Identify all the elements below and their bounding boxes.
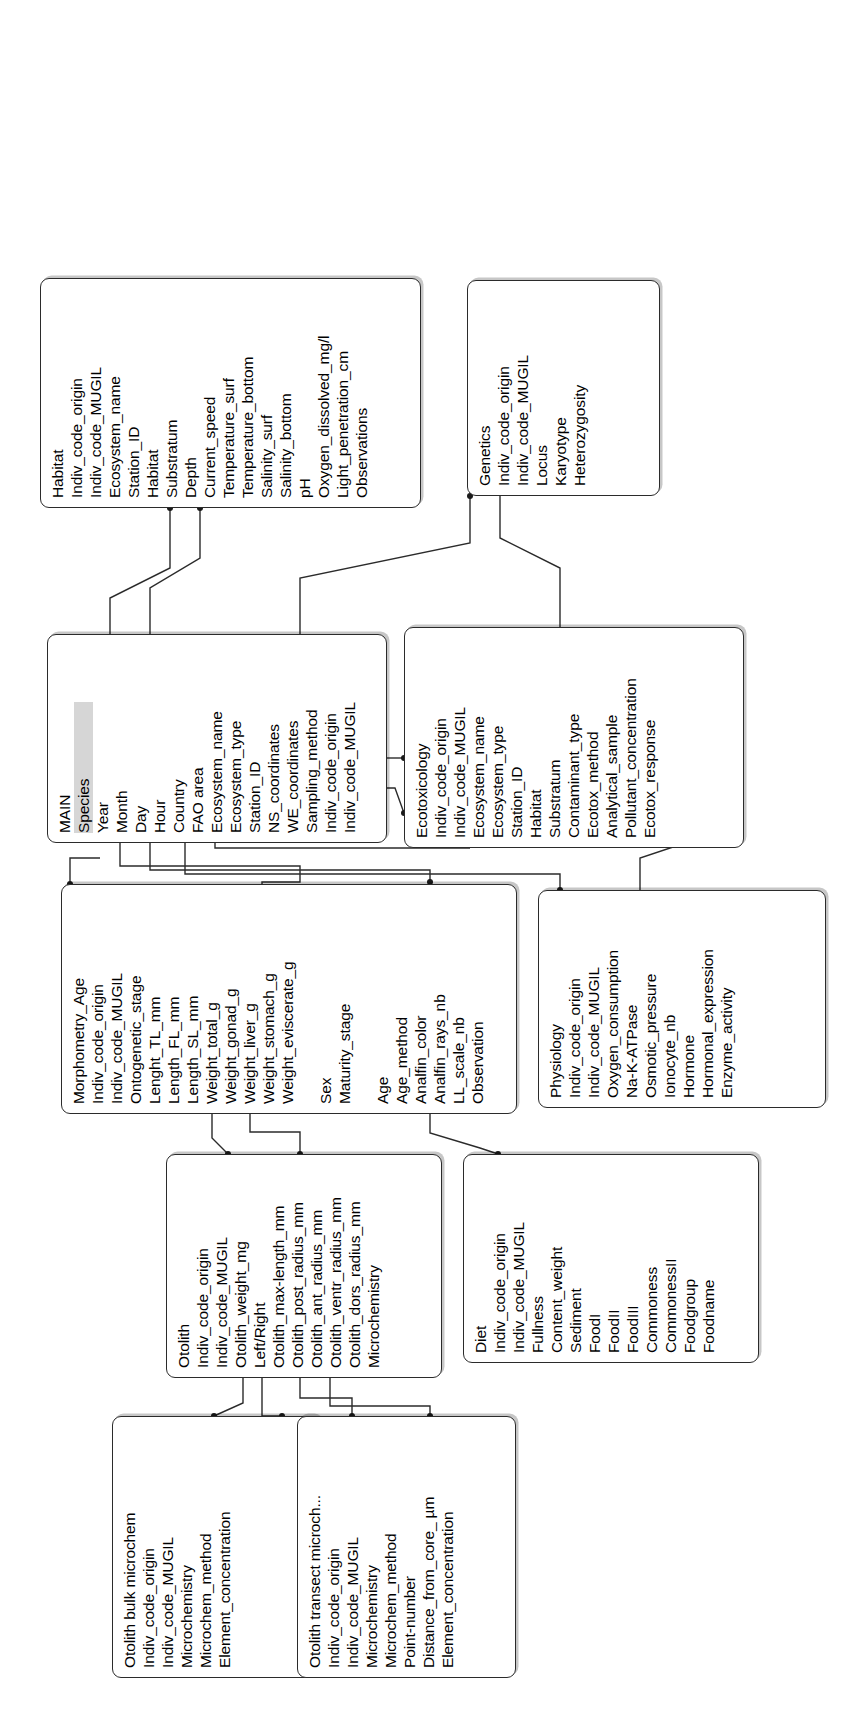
entity-field: Ecosystem_name: [105, 376, 124, 498]
entity-field: Karyotype: [551, 417, 570, 486]
entity-field: Ecosystem_type: [226, 721, 245, 833]
entity-field: Microchem_method: [381, 1533, 400, 1668]
entity-field-list: Indiv_code_origin Indiv_code_MUGIL Micro…: [324, 1497, 457, 1668]
entity-field: Ionocyte_nb: [660, 1015, 679, 1098]
entity-field: Ecosystem_name: [469, 716, 488, 838]
entity-field: NS_coordinates: [264, 724, 283, 833]
entity-title: Morphometry_Age: [69, 978, 88, 1104]
entity-morphometry-age[interactable]: Morphometry_Age Indiv_code_origin Indiv_…: [61, 884, 517, 1114]
er-diagram-rotation-wrapper: Otolith bulk microchem Indiv_code_origin…: [0, 0, 847, 1718]
link-morpho-otolith: [212, 1114, 228, 1154]
entity-field: Hour: [150, 800, 169, 833]
entity-field: Hormone: [679, 1035, 698, 1098]
entity-title: Diet: [471, 1326, 490, 1353]
entity-field: Habitat: [526, 790, 545, 838]
entity-ecotoxicology[interactable]: Ecotoxicology Indiv_code_origin Indiv_co…: [404, 627, 744, 848]
entity-field: Analfin_rays_nb: [430, 994, 449, 1104]
entity-diet[interactable]: Diet Indiv_code_origin Indiv_code_MUGIL …: [463, 1154, 759, 1363]
entity-habitat[interactable]: Habitat Indiv_code_origin Indiv_code_MUG…: [40, 278, 421, 508]
entity-field: Pollutant_concentration: [621, 678, 640, 838]
entity-field: Indiv_code_MUGIL: [509, 1222, 528, 1353]
entity-field: Country: [169, 779, 188, 833]
link-main-fan-1: [150, 843, 430, 882]
entity-genetics[interactable]: Genetics Indiv_code_origin Indiv_code_MU…: [467, 280, 660, 496]
entity-field: Sediment: [566, 1288, 585, 1353]
link-otolith-transect-2: [330, 1378, 430, 1416]
entity-field: Age_method: [392, 1017, 411, 1104]
entity-field: Indiv_code_origin: [431, 718, 450, 838]
entity-field: Salinity_bottom: [276, 394, 295, 498]
entity-field: Weight_liver_g: [240, 1003, 259, 1104]
entity-field: Ecotox_method: [583, 732, 602, 838]
entity-field: Ecotox_response: [640, 720, 659, 838]
entity-field-list: Species Year Month Day Hour Country FAO …: [74, 702, 359, 833]
entity-field-list: Indiv_code_origin Indiv_code_MUGIL Otoli…: [193, 1197, 383, 1368]
entity-field: Habitat: [143, 450, 162, 498]
link-main-habitat-2: [150, 508, 200, 634]
entity-field: Station_ID: [245, 762, 264, 833]
entity-field: Otolith_ant_radius_mm: [307, 1210, 326, 1368]
entity-field-list: Indiv_code_origin Indiv_code_MUGIL Ontog…: [88, 961, 487, 1104]
entity-field: Depth: [181, 457, 200, 498]
entity-field: Heterozygosity: [570, 385, 589, 486]
entity-field: Otolith_ventr_radius_mm: [326, 1197, 345, 1368]
entity-field: Indiv_code_origin: [494, 366, 513, 486]
entity-field: Element_concentration: [438, 1512, 457, 1668]
link-otolith-transect: [300, 1378, 352, 1416]
entity-field: Analytical_sample: [602, 715, 621, 838]
er-diagram-canvas: Otolith bulk microchem Indiv_code_origin…: [0, 0, 847, 1718]
entity-field: Foodname: [699, 1280, 718, 1353]
entity-field: Indiv_code_MUGIL: [584, 967, 603, 1098]
entity-field: Oxygen_consumption: [603, 950, 622, 1098]
entity-field-list: Indiv_code_origin Indiv_code_MUGIL Ecosy…: [431, 678, 659, 838]
entity-field: Ontogenetic_stage: [126, 976, 145, 1104]
entity-field: Station_ID: [124, 427, 143, 498]
entity-field: Temperature_surf: [219, 378, 238, 498]
entity-title: Genetics: [475, 426, 494, 486]
entity-field: Length_SL_mm: [183, 996, 202, 1104]
entity-field: WE_coordinates: [283, 721, 302, 833]
entity-field: Locus: [532, 445, 551, 486]
entity-field: FAO area: [188, 767, 207, 833]
entity-field: Indiv_code_MUGIL: [343, 1537, 362, 1668]
link-main-habitat: [110, 508, 170, 634]
entity-field: Weight_gonad_g: [221, 988, 240, 1104]
entity-field: Salinity_surf: [257, 415, 276, 498]
entity-field: Ecosystem_type: [488, 726, 507, 838]
entity-field: Osmotic_pressure: [641, 974, 660, 1098]
entity-physiology[interactable]: Physiology Indiv_code_origin Indiv_code_…: [538, 890, 826, 1108]
entity-field: Light_penetration_cm: [333, 351, 352, 498]
entity-field: Current_speed: [200, 397, 219, 498]
entity-field: Contaminant_type: [564, 714, 583, 838]
entity-main[interactable]: MAIN Species Year Month Day Hour Country…: [47, 634, 387, 843]
entity-field: Month: [112, 790, 131, 833]
link-otolith-bulk: [214, 1378, 243, 1416]
entity-field: Analfin_color: [411, 1016, 430, 1104]
entity-title: Physiology: [546, 1024, 565, 1098]
entity-field: Fullness: [528, 1296, 547, 1353]
entity-field: Oxygen_dissolved_mg/l: [314, 336, 333, 498]
entity-field: Foodgroup: [680, 1279, 699, 1353]
entity-field: Weight_total_g: [202, 1002, 221, 1104]
entity-otolith-transect-microchem[interactable]: Otolith transect microch... Indiv_code_o…: [297, 1416, 516, 1678]
entity-field: Indiv_code_origin: [321, 713, 340, 833]
entity-field: FoodII: [604, 1310, 623, 1353]
entity-field: Indiv_code_MUGIL: [107, 973, 126, 1104]
entity-field: Station_ID: [507, 767, 526, 838]
entity-field: Element_concentration: [215, 1512, 234, 1668]
link-otolith-bulk-2: [262, 1378, 282, 1416]
entity-field: Ecosystem_name: [207, 711, 226, 833]
entity-otolith-bulk-microchem[interactable]: Otolith bulk microchem Indiv_code_origin…: [112, 1416, 321, 1678]
entity-field: Microchemistry: [364, 1265, 383, 1368]
entity-field-list: Indiv_code_origin Indiv_code_MUGIL Ecosy…: [67, 336, 371, 498]
entity-field: Sex: [316, 1078, 335, 1104]
link-ecotox-genetics: [500, 496, 560, 627]
entity-field: Maturity_stage: [335, 1004, 354, 1104]
entity-field: Left/Right: [250, 1303, 269, 1368]
entity-field: Indiv_code_origin: [139, 1548, 158, 1668]
entity-field: Distance_from_core_ µm: [419, 1497, 438, 1668]
entity-field: Weight_eviscerate_g: [278, 961, 297, 1104]
entity-field-primary-key: Species: [74, 702, 93, 833]
entity-title: Habitat: [48, 450, 67, 498]
entity-otolith[interactable]: Otolith Indiv_code_origin Indiv_code_MUG…: [166, 1154, 442, 1378]
